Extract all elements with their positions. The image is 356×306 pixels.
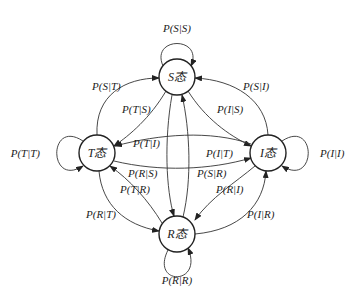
label-p-t-s: P(T|S) xyxy=(121,103,151,116)
label-p-t-t: P(T|T) xyxy=(10,147,41,160)
edge-t-to-i: P(I|T) xyxy=(114,147,251,168)
self-loop-i: P(I|I) xyxy=(282,136,345,170)
label-p-s-s: P(S|S) xyxy=(162,22,191,35)
node-t: T态 xyxy=(79,135,115,171)
node-r-label: R态 xyxy=(166,227,188,241)
state-transition-diagram: P(S|S) P(T|T) P(I|I) P(R|R) P(S|T) P(T|S… xyxy=(0,0,356,306)
node-s: S态 xyxy=(159,59,195,95)
self-loop-r: P(R|R) xyxy=(161,248,193,287)
label-p-r-s: P(R|S) xyxy=(127,167,158,180)
node-s-label: S态 xyxy=(168,70,188,84)
label-p-r-i: P(R|I) xyxy=(215,183,244,196)
label-p-s-r: P(S|R) xyxy=(196,167,227,180)
label-p-s-i: P(S|I) xyxy=(242,80,270,93)
edge-t-to-r: P(R|T) xyxy=(85,171,159,231)
label-p-i-s: P(I|S) xyxy=(216,103,244,116)
node-t-label: T态 xyxy=(88,146,109,160)
label-p-t-i: P(T|I) xyxy=(132,137,160,150)
node-i-label: I态 xyxy=(259,146,278,160)
label-p-r-r: P(R|R) xyxy=(161,274,193,287)
self-loop-t: P(T|T) xyxy=(10,136,83,170)
node-r: R态 xyxy=(159,216,195,252)
label-p-i-r: P(I|R) xyxy=(246,208,275,221)
label-p-r-t: P(R|T) xyxy=(85,208,116,221)
label-p-s-t: P(S|T) xyxy=(91,80,121,93)
node-i: I态 xyxy=(250,135,286,171)
edge-s-to-i: P(I|S) xyxy=(188,91,251,146)
label-p-i-i: P(I|I) xyxy=(319,147,345,160)
label-p-i-t: P(I|T) xyxy=(205,147,233,160)
edge-r-to-i: P(I|R) xyxy=(195,171,275,234)
label-p-t-r: P(T|R) xyxy=(119,183,150,196)
